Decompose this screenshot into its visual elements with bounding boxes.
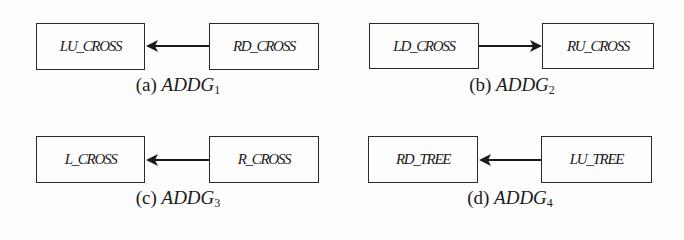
caption-index: 3 — [214, 196, 220, 210]
node-ru-cross: RU_CROSS — [542, 23, 654, 69]
caption-label: (b) — [469, 74, 491, 95]
arrow-right-icon — [479, 36, 543, 56]
node-r-cross: R_CROSS — [209, 136, 319, 183]
arrow-left-icon — [478, 150, 542, 170]
caption-graph: ADDG — [496, 74, 549, 95]
node-rd-tree: RD_TREE — [368, 136, 478, 183]
arrow-left-icon — [145, 36, 209, 56]
node-ld-cross: LD_CROSS — [369, 23, 479, 69]
caption-index: 4 — [547, 196, 553, 210]
arrow-left-icon — [145, 150, 209, 170]
caption-graph: ADDG — [494, 187, 547, 208]
caption-index: 1 — [214, 83, 220, 97]
caption-graph: ADDG — [162, 187, 215, 208]
caption-d: (d) ADDG4 — [410, 187, 610, 211]
node-lu-tree: LU_TREE — [541, 136, 652, 183]
node-rd-cross: RD_CROSS — [209, 23, 319, 70]
caption-label: (d) — [467, 187, 489, 208]
node-lu-cross: LU_CROSS — [36, 23, 145, 70]
caption-a: (a) ADDG1 — [78, 74, 278, 98]
caption-graph: ADDG — [162, 74, 215, 95]
caption-label: (a) — [136, 74, 157, 95]
caption-c: (c) ADDG3 — [78, 187, 278, 211]
caption-b: (b) ADDG2 — [412, 74, 612, 98]
node-l-cross: L_CROSS — [36, 136, 145, 183]
caption-label: (c) — [136, 187, 157, 208]
caption-index: 2 — [549, 83, 555, 97]
